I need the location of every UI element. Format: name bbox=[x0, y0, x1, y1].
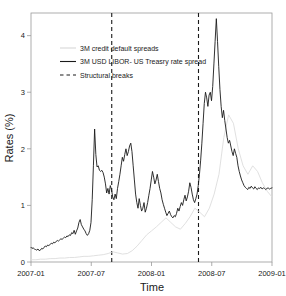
line-chart: 01234 2007-012007-072008-012008-072009-0… bbox=[0, 0, 286, 296]
x-tick-label: 2008-01 bbox=[138, 269, 166, 278]
x-tick-label: 2007-01 bbox=[17, 269, 45, 278]
y-axis-title: Rates (%) bbox=[3, 114, 15, 163]
series-line bbox=[31, 115, 272, 260]
x-tick-label: 2009-01 bbox=[258, 269, 286, 278]
x-tick-label: 2007-07 bbox=[77, 269, 105, 278]
y-tick-label: 4 bbox=[21, 31, 25, 40]
legend-label-1: 3M credit default spreads bbox=[80, 45, 159, 53]
x-tick-label: 2008-07 bbox=[198, 269, 226, 278]
x-axis-title: Time bbox=[140, 281, 164, 293]
chart-legend: 3M credit default spreads3M USD LIBOR- U… bbox=[60, 45, 206, 79]
y-axis-ticks: 01234 bbox=[21, 31, 31, 266]
data-series-group bbox=[31, 19, 272, 260]
y-tick-label: 0 bbox=[21, 258, 25, 267]
y-tick-label: 3 bbox=[21, 88, 25, 97]
legend-label-2: 3M USD LIBOR- US Treasry rate spread bbox=[80, 58, 206, 66]
y-tick-label: 1 bbox=[21, 201, 25, 210]
x-axis-ticks: 2007-012007-072008-012008-072009-01 bbox=[17, 262, 286, 278]
chart-figure: 01234 2007-012007-072008-012008-072009-0… bbox=[0, 0, 286, 296]
legend-label-3: Structural breaks bbox=[80, 72, 133, 79]
y-tick-label: 2 bbox=[21, 145, 25, 154]
